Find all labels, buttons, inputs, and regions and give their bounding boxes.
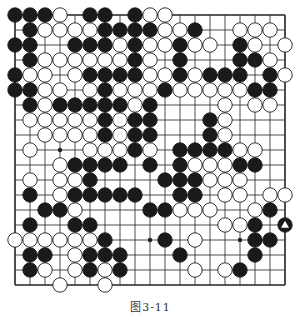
black-stone [203,113,217,127]
black-stone [23,38,37,52]
white-stone [113,38,127,52]
black-stone [113,248,127,262]
white-stone [68,53,82,67]
white-stone [188,233,202,247]
white-stone [218,188,232,202]
white-stone [113,128,127,142]
black-stone [173,173,187,187]
white-stone [278,188,292,202]
black-stone [23,98,37,112]
white-stone [23,68,37,82]
white-stone [203,158,217,172]
black-stone [128,38,142,52]
white-stone [68,23,82,37]
white-stone [53,233,67,247]
white-stone [248,23,262,37]
black-stone [143,128,157,142]
black-stone [203,68,217,82]
white-stone [203,83,217,97]
white-stone [38,23,52,37]
white-stone [143,143,157,157]
black-stone [263,233,277,247]
black-stone [113,158,127,172]
white-stone [263,53,277,67]
white-stone [218,113,232,127]
black-stone [23,8,37,22]
white-stone [23,233,37,247]
black-stone [83,173,97,187]
black-stone [8,83,22,97]
black-stone [143,158,157,172]
black-stone [38,8,52,22]
black-stone [128,53,142,67]
black-stone [143,23,157,37]
white-stone [38,53,52,67]
white-stone [83,113,97,127]
white-stone [38,263,52,277]
black-stone [233,68,247,82]
white-stone [68,203,82,217]
black-stone [173,38,187,52]
white-stone [53,278,67,292]
black-stone [68,218,82,232]
black-stone [173,143,187,157]
black-stone [158,203,172,217]
black-stone [23,188,37,202]
white-stone [113,143,127,157]
black-stone [8,68,22,82]
black-stone [98,188,112,202]
black-stone [248,248,262,262]
diagram-caption: 图3-11 [0,298,301,314]
black-stone [23,23,37,37]
white-stone [218,128,232,142]
white-stone [53,128,67,142]
white-stone [38,233,52,247]
white-stone [113,113,127,127]
white-stone [278,68,292,82]
black-stone [173,188,187,202]
black-stone [98,98,112,112]
white-stone [188,83,202,97]
black-stone [83,188,97,202]
white-stone [83,23,97,37]
black-stone [128,188,142,202]
black-stone [188,143,202,157]
black-stone [128,143,142,157]
white-stone [8,233,22,247]
black-stone [173,158,187,172]
white-stone [143,83,157,97]
white-stone [83,53,97,67]
black-stone [23,83,37,97]
black-stone [98,128,112,142]
black-stone [23,263,37,277]
white-stone [23,143,37,157]
black-stone [83,158,97,172]
white-stone [188,263,202,277]
black-stone [203,128,217,142]
white-stone [263,23,277,37]
black-stone [98,23,112,37]
white-stone [38,83,52,97]
black-stone [143,113,157,127]
black-stone [68,188,82,202]
white-stone [203,203,217,217]
white-stone [38,113,52,127]
black-stone [53,203,67,217]
black-stone [83,38,97,52]
black-stone [158,83,172,97]
black-stone [173,53,187,67]
black-stone [98,248,112,262]
black-stone [263,83,277,97]
white-stone [188,38,202,52]
white-stone [68,263,82,277]
white-stone [128,98,142,112]
black-stone [173,68,187,82]
white-stone [248,98,262,112]
black-stone [98,8,112,22]
white-stone [53,173,67,187]
white-stone [158,23,172,37]
white-stone [233,143,247,157]
black-stone [23,248,37,262]
black-stone [83,248,97,262]
white-stone [218,83,232,97]
